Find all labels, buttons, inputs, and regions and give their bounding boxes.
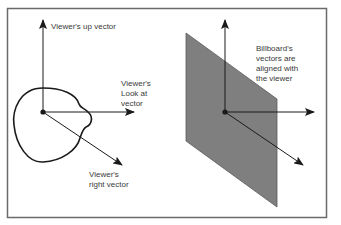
right-vector-label: Viewer's right vector <box>89 170 129 189</box>
viewer-origin-dot <box>40 109 45 114</box>
up-vector-label: Viewer's up vector <box>51 22 116 31</box>
diagram-frame <box>8 9 327 218</box>
viewer-head-outline <box>14 88 92 162</box>
viewer-head-group: Viewer's up vector Viewer's Look at vect… <box>14 20 153 189</box>
billboard-group: Billboard's vectors are aligned with the… <box>186 20 314 207</box>
billboard-origin-dot <box>222 109 227 114</box>
billboard-diagram: Viewer's up vector Viewer's Look at vect… <box>0 0 341 225</box>
right-vector-arrow <box>43 112 122 165</box>
billboard-note-label: Billboard's vectors are aligned with the… <box>256 44 300 83</box>
look-at-vector-label: Viewer's Look at vector <box>121 79 153 108</box>
